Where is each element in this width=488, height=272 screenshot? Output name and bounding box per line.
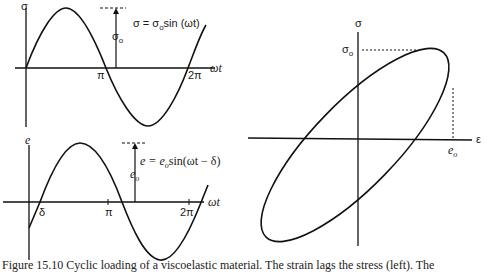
strain-x-axis-label: ωt (208, 195, 220, 209)
hysteresis-y-axis-label: σ (355, 17, 362, 29)
hysteresis-loop (236, 24, 474, 267)
sigma-max-label: σo (342, 43, 354, 58)
arrow-head-icon (113, 8, 119, 14)
arrow-head-icon (132, 143, 138, 149)
strain-tick-2pi: 2π (180, 206, 194, 218)
stress-y-axis-label: σ (21, 0, 28, 12)
stress-equation: σ = σosin (ωt) (133, 17, 200, 32)
strain-equation: e = eosin(ωt − δ) (140, 154, 220, 170)
strain-amplitude-label: eo (130, 167, 139, 183)
strain-tick-delta: δ (39, 206, 45, 218)
hysteresis-plot: σ ε σo eo (236, 17, 481, 266)
hysteresis-epsilon-axis (248, 138, 472, 140)
strain-y-axis-label: e (25, 133, 31, 147)
stress-x-axis-label: ωt (210, 61, 222, 75)
strain-tick-pi: π (105, 206, 113, 218)
figure-canvas: σ ωt π 2π σo σ = σosin (ωt) e ωt δ π 2π … (0, 0, 488, 272)
stress-amplitude-label: σo (112, 30, 124, 45)
hysteresis-x-axis-label: ε (476, 133, 481, 145)
figure-caption: Figure 15.10 Cyclic loading of a viscoel… (2, 258, 434, 272)
stress-tick-2pi: 2π (188, 69, 202, 81)
stress-plot: σ ωt π 2π σo σ = σosin (ωt) (15, 0, 222, 127)
stress-tick-pi: π (97, 69, 105, 81)
strain-plot: e ωt δ π 2π eo e = eosin(ωt − δ) (3, 133, 220, 260)
strain-max-label: eo (448, 143, 457, 159)
